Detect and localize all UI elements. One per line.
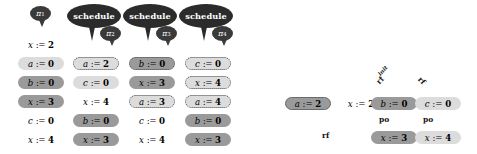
- event-op: :=: [389, 99, 399, 109]
- instr-var: x: [28, 97, 33, 107]
- event-node-b0: b := 0: [371, 97, 417, 110]
- schedule-bubble: schedule: [179, 4, 233, 28]
- instr-val: 2: [103, 59, 109, 69]
- schedule-column-pi4: schedule π4 c := 0 x := 4 a := 4 b := 0 …: [181, 0, 237, 154]
- event-val: 4: [445, 133, 451, 143]
- event-val: 0: [445, 99, 451, 109]
- instr-op: :=: [36, 59, 46, 69]
- instr-cell: a := 4: [185, 95, 231, 108]
- event-var: b: [380, 99, 386, 109]
- instr-cell: x := 4: [73, 95, 119, 108]
- instr-val: 0: [103, 78, 109, 88]
- instr-var: a: [28, 59, 33, 69]
- schedule-bubble: schedule: [123, 4, 177, 28]
- schedule-bubble-label: schedule: [185, 11, 227, 21]
- instr-var: c: [83, 78, 88, 88]
- instr-cell: b := 0: [18, 76, 64, 89]
- instr-op: :=: [91, 135, 101, 145]
- instr-var: b: [195, 116, 201, 126]
- instr-var: x: [195, 135, 200, 145]
- instr-cell: x := 3: [129, 76, 175, 89]
- instr-var: c: [139, 116, 144, 126]
- pi1-sub: 1: [41, 11, 44, 17]
- edge-label-text: po: [379, 115, 389, 124]
- instr-val: 0: [159, 59, 165, 69]
- instr-val: 0: [215, 116, 221, 126]
- event-op: :=: [388, 133, 398, 143]
- pi3-badge: π3: [156, 26, 177, 41]
- instr-val: 0: [103, 116, 109, 126]
- instr-cell: x := 3: [18, 95, 64, 108]
- instr-op: :=: [147, 78, 157, 88]
- right-panel-event-graph: a := 2 x := 2 b := 0 c := 0 x := 3 x := …: [280, 0, 477, 154]
- instr-val: 0: [159, 116, 165, 126]
- instr-var: x: [83, 97, 88, 107]
- event-op: :=: [355, 99, 365, 109]
- instr-cell: c := 0: [18, 114, 64, 127]
- instr-val: 4: [159, 135, 165, 145]
- instr-op: :=: [147, 97, 157, 107]
- instr-val: 4: [215, 97, 221, 107]
- instr-var: b: [28, 78, 34, 88]
- instr-val: 4: [103, 97, 109, 107]
- event-op: :=: [432, 133, 442, 143]
- instr-op: :=: [203, 116, 213, 126]
- left-panel-schedules: π1 x := 2 a := 0 b := 0 x := 3 c := 0 x …: [0, 0, 250, 154]
- figure-root: π1 x := 2 a := 0 b := 0 x := 3 c := 0 x …: [0, 0, 477, 154]
- event-var: c: [425, 99, 430, 109]
- instr-cell: c := 0: [73, 76, 119, 89]
- event-var: a: [295, 99, 300, 109]
- instr-var: x: [139, 135, 144, 145]
- event-node-x4: x := 4: [415, 131, 461, 144]
- instr-op: :=: [91, 116, 101, 126]
- event-op: :=: [432, 99, 442, 109]
- instr-cell: x := 3: [73, 133, 119, 146]
- instr-cell: a := 0: [18, 57, 64, 70]
- edge-label-sup: init: [377, 65, 389, 77]
- instr-var: c: [28, 116, 33, 126]
- instr-op: :=: [147, 135, 157, 145]
- event-node-a2: a := 2: [285, 97, 331, 110]
- instr-cell: x := 2: [18, 38, 64, 51]
- schedule-column-pi3: schedule π3 b := 0 x := 3 a := 3 c := 0 …: [125, 0, 181, 154]
- event-var: x: [425, 133, 430, 143]
- event-val: 2: [315, 99, 321, 109]
- event-node-c0: c := 0: [415, 97, 461, 110]
- instr-op: :=: [36, 78, 46, 88]
- instr-var: x: [139, 78, 144, 88]
- instr-cell: b := 0: [185, 114, 231, 127]
- instr-var: a: [83, 59, 88, 69]
- event-var: x: [381, 133, 386, 143]
- instr-cell: a := 3: [129, 95, 175, 108]
- instr-var: b: [83, 116, 89, 126]
- instr-var: b: [139, 59, 145, 69]
- instr-var: x: [28, 40, 33, 50]
- instr-op: :=: [203, 78, 213, 88]
- edge-label-text: po: [423, 115, 433, 124]
- instr-op: :=: [91, 97, 101, 107]
- instr-op: :=: [91, 78, 101, 88]
- pi1-badge: π1: [30, 6, 51, 21]
- instr-val: 0: [48, 59, 54, 69]
- schedule-column-pi2: schedule π2 a := 2 c := 0 x := 4 b := 0 …: [69, 0, 125, 154]
- instr-val: 3: [48, 97, 54, 107]
- instr-val: 0: [48, 116, 54, 126]
- instr-var: x: [195, 78, 200, 88]
- edge-label-text: rf: [416, 75, 427, 86]
- instr-val: 0: [215, 59, 221, 69]
- edge-label-po-c0-x4: po: [423, 115, 433, 124]
- instr-val: 3: [159, 97, 165, 107]
- schedule-bubble-label: schedule: [129, 11, 171, 21]
- event-val: 0: [402, 99, 408, 109]
- instr-var: x: [28, 135, 33, 145]
- instr-cell: c := 0: [129, 114, 175, 127]
- schedule-bubble-label: schedule: [73, 11, 115, 21]
- instr-var: c: [195, 59, 200, 69]
- instr-op: :=: [147, 59, 157, 69]
- instr-op: :=: [36, 97, 46, 107]
- edge-label-text: rf: [322, 131, 329, 140]
- instr-cell: x := 4: [185, 76, 231, 89]
- edge-label-rf-a2: rf: [322, 131, 329, 140]
- instr-cell: x := 3: [185, 133, 231, 146]
- pi4-sub: 4: [223, 31, 226, 37]
